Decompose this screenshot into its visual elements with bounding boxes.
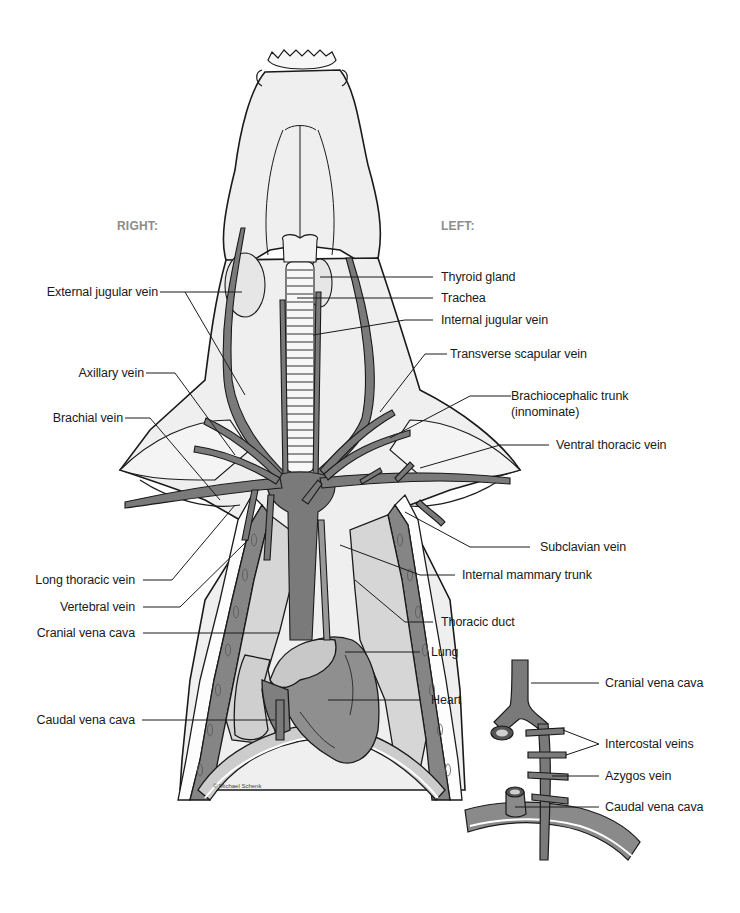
label-brachiocephalic-trunk-alt: (innominate) xyxy=(511,405,579,419)
label-internal-mammary-trunk: Internal mammary trunk xyxy=(462,568,592,582)
inset-azygos-illustration xyxy=(465,660,640,860)
illustrator-credit: © Michael Schenk xyxy=(213,783,261,789)
orientation-right-label: RIGHT: xyxy=(117,219,158,233)
orientation-left-label: LEFT: xyxy=(441,219,475,233)
label-ventral-thoracic-vein: Ventral thoracic vein xyxy=(556,438,666,452)
label-inset-caudal-vena-cava: Caudal vena cava xyxy=(605,800,703,814)
label-vertebral-vein: Vertebral vein xyxy=(60,600,135,614)
label-axillary-vein: Axillary vein xyxy=(79,366,144,380)
label-azygos-vein: Azygos vein xyxy=(605,769,671,783)
label-long-thoracic-vein: Long thoracic vein xyxy=(35,573,135,587)
label-heart: Heart xyxy=(431,693,461,707)
label-cranial-vena-cava: Cranial vena cava xyxy=(37,626,135,640)
label-trachea: Trachea xyxy=(441,291,486,305)
label-thyroid-gland: Thyroid gland xyxy=(441,270,515,284)
label-brachial-vein: Brachial vein xyxy=(53,411,123,425)
label-caudal-vena-cava: Caudal vena cava xyxy=(37,713,135,727)
label-inset-cranial-vena-cava: Cranial vena cava xyxy=(605,676,703,690)
label-intercostal-veins: Intercostal veins xyxy=(605,737,694,751)
label-internal-jugular-vein: Internal jugular vein xyxy=(441,313,548,327)
label-brachiocephalic-trunk: Brachiocephalic trunk xyxy=(511,389,628,403)
label-external-jugular-vein: External jugular vein xyxy=(47,285,158,299)
label-transverse-scapular-vein: Transverse scapular vein xyxy=(450,347,587,361)
label-subclavian-vein: Subclavian vein xyxy=(540,540,626,554)
label-thoracic-duct: Thoracic duct xyxy=(441,615,515,629)
label-lung: Lung xyxy=(431,645,458,659)
